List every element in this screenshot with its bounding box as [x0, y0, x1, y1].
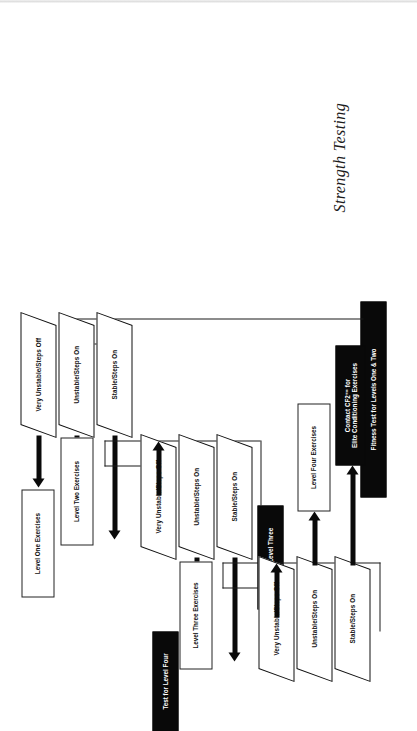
elite-label-line1: Contact CF2™ for — [343, 378, 350, 432]
outcome-box-level-three-exercises-g2[interactable]: Level Three Exercises — [179, 561, 212, 669]
outcome-label: Level Two Exercises — [73, 460, 80, 521]
arrow-g3-very-unstable-to-level-three — [270, 563, 283, 617]
arrow-g2-stable-to-test-four — [228, 557, 241, 661]
connector-line-group2-top — [104, 440, 105, 466]
arrow-shaft — [112, 435, 116, 531]
decision-g1-stable[interactable]: Stable/Steps On — [96, 311, 132, 437]
process-box-label: Test for Level Four — [161, 653, 168, 709]
decision-label: Stable/Steps On — [111, 350, 118, 400]
decision-label: Stable/Steps On — [231, 472, 238, 522]
decision-label: Unstable/Steps On — [193, 468, 200, 526]
arrow-g1-stable-to-test-three — [108, 435, 121, 539]
decision-label: Stable/Steps On — [349, 594, 356, 644]
arrow-g3-unstable-to-level-four — [308, 511, 321, 565]
decision-g2-unstable[interactable]: Unstable/Steps On — [178, 433, 214, 559]
connector-line-group3-bottom — [379, 562, 380, 631]
decision-g3-stable[interactable]: Stable/Steps On — [334, 555, 370, 681]
outcome-box-level-one-exercises[interactable]: Level One Exercises — [21, 489, 54, 597]
connector-line-group3-top — [222, 562, 223, 588]
decision-label: Unstable/Steps On — [311, 590, 318, 648]
arrow-shaft — [232, 557, 236, 653]
outcome-label: Level Four Exercises — [310, 426, 317, 489]
outcome-box-elite-conditioning[interactable]: Contact CF2™ for Elite Conditioning Exer… — [335, 345, 365, 465]
arrow-g2-very-unstable-to-level-two — [152, 441, 165, 495]
decision-g1-unstable[interactable]: Unstable/Steps On — [58, 311, 94, 437]
arrow-shaft — [36, 435, 40, 479]
arrow-g3-stable-to-elite — [346, 465, 359, 565]
arrow-shaft — [274, 571, 278, 617]
connector-line-group2-bottom — [260, 440, 261, 505]
arrow-shaft — [156, 449, 160, 495]
arrow-shaft — [312, 519, 316, 565]
outcome-box-level-two-exercises-g1[interactable]: Level Two Exercises — [60, 437, 93, 545]
page-title: Strength Testing — [330, 102, 348, 212]
decision-g2-stable[interactable]: Stable/Steps On — [216, 433, 252, 559]
outcome-label: Level Three Exercises — [192, 582, 199, 648]
process-box-test-level-four[interactable]: Test for Level Four — [152, 631, 178, 731]
arrow-shaft — [350, 473, 354, 565]
decision-label: Unstable/Steps On — [73, 346, 80, 404]
arrow-g1-very-unstable-to-level-one — [32, 435, 45, 487]
outcome-label: Level One Exercises — [34, 512, 41, 573]
process-box-label: Fitness Test for Levels One & Two — [369, 348, 376, 450]
decision-label: Very Unstable/Steps Off — [35, 338, 42, 412]
elite-label-line2: Elite Conditioning Exercises — [350, 362, 357, 447]
decision-g1-very-unstable[interactable]: Very Unstable/Steps Off — [20, 311, 56, 437]
outcome-box-level-four-exercises[interactable]: Level Four Exercises — [297, 403, 330, 511]
decision-g3-unstable[interactable]: Unstable/Steps On — [296, 555, 332, 681]
